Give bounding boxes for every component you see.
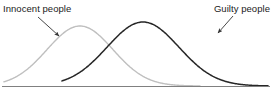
guilty-curve-label: Guilty people	[214, 3, 270, 14]
curves-canvas	[0, 0, 272, 97]
innocent-curve-label: Innocent people	[3, 3, 71, 14]
distribution-figure: Innocent people Guilty people	[0, 0, 272, 97]
guilty-distribution-curve	[62, 22, 268, 86]
innocent-annotation-arrow	[38, 17, 59, 36]
innocent-distribution-curve	[4, 26, 200, 86]
guilty-annotation-arrow	[218, 16, 233, 33]
